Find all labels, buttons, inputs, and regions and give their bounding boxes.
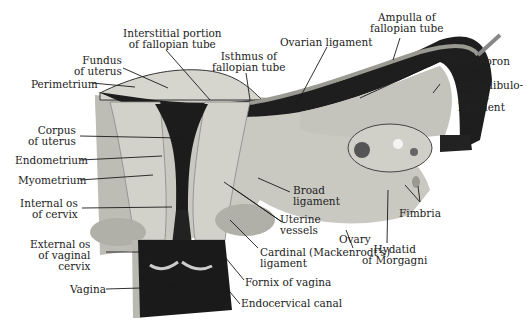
label-broad-ligament: Broad ligament bbox=[293, 185, 340, 207]
anatomy-diagram: Interstitial portion of fallopian tube F… bbox=[0, 0, 526, 328]
label-internal-os: Internal os of cervix bbox=[20, 198, 78, 220]
label-external-os: External os of vaginal cervix bbox=[30, 239, 90, 272]
label-myometrium: Myometrium bbox=[18, 175, 87, 186]
label-uterine-vessels: Uterine vessels bbox=[280, 214, 321, 236]
label-ampulla: Ampulla of fallopian tube bbox=[370, 12, 444, 34]
label-ovarian-ligament: Ovarian ligament bbox=[280, 37, 372, 48]
label-fimbria: Fimbria bbox=[399, 208, 441, 219]
label-fornix: Fornix of vagina bbox=[245, 277, 331, 288]
label-endometrium: Endometrium bbox=[15, 155, 88, 166]
label-vagina: Vagina bbox=[70, 284, 106, 295]
label-isthmus: Isthmus of fallopian tube bbox=[212, 51, 286, 73]
label-epoophoron: Epoophoron bbox=[445, 56, 510, 67]
label-corpus: Corpus of uterus bbox=[28, 125, 76, 147]
label-perimetrium: Perimetrium bbox=[31, 79, 98, 90]
label-interstitial-portion: Interstitial portion of fallopian tube bbox=[123, 28, 222, 50]
label-fundus: Fundus of uterus bbox=[74, 55, 122, 77]
label-endocervical-canal: Endocervical canal bbox=[241, 298, 342, 309]
label-infundibulopelvic: Infundibulo- pelvic ligament bbox=[458, 80, 523, 113]
label-hydatid: Hydatid of Morgagni bbox=[362, 244, 427, 266]
